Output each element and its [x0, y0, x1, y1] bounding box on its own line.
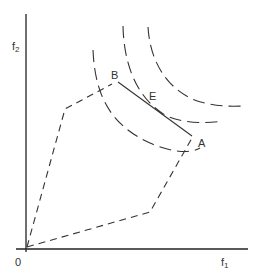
y-axis-label: f2: [12, 41, 20, 54]
feasible-region-lower-edge: [27, 138, 192, 247]
diagram-canvas: [0, 0, 265, 278]
indifference-curve-outer: [148, 27, 242, 106]
origin-label: 0: [15, 257, 21, 268]
indifference-curve-inner: [93, 50, 200, 151]
indifference-curve-middle: [123, 26, 222, 123]
point-b-label: B: [111, 70, 118, 81]
point-a-label: A: [198, 138, 205, 149]
x-axis-label: f1: [221, 257, 229, 270]
point-e-label: E: [149, 91, 156, 102]
feasible-region-left-edge: [27, 84, 112, 247]
